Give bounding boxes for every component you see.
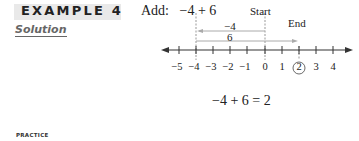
tick-label-circled: 2 xyxy=(296,61,301,72)
tick-label: −2 xyxy=(222,61,233,72)
tick-label: 4 xyxy=(330,61,335,72)
tick-label: 0 xyxy=(262,61,267,72)
tick-label: 3 xyxy=(313,61,318,72)
tick-label: −3 xyxy=(205,61,216,72)
tick-label: −5 xyxy=(171,61,182,72)
arrow-6-label: 6 xyxy=(227,31,233,43)
start-label: Start xyxy=(250,5,271,17)
result-equation: −4 + 6 = 2 xyxy=(212,93,271,109)
tick-label: −1 xyxy=(239,61,250,72)
tick-label: −4 xyxy=(188,61,199,72)
practice-heading: PRACTICE xyxy=(16,132,49,138)
tick-label: 1 xyxy=(279,61,284,72)
end-label: End xyxy=(288,17,306,29)
